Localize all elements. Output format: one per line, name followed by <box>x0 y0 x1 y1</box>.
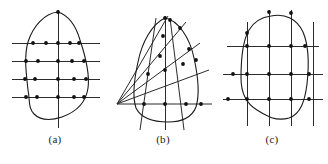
panel-b-drawing <box>108 0 218 134</box>
sample-point <box>289 72 293 76</box>
region-boundary-curve <box>241 15 308 119</box>
region-boundary-curve <box>26 12 89 119</box>
sample-point <box>72 77 76 81</box>
sample-point <box>199 102 203 106</box>
fan-ray <box>117 16 168 104</box>
sample-point <box>267 72 271 76</box>
sample-point <box>303 44 307 48</box>
sample-point <box>163 68 167 72</box>
sample-point <box>163 16 167 20</box>
sample-point <box>307 97 311 101</box>
sample-point <box>56 10 60 14</box>
sample-point <box>44 41 48 45</box>
panel-a-scanlines <box>12 43 100 97</box>
sample-point <box>161 34 165 38</box>
sample-point <box>56 95 60 99</box>
sample-point <box>289 11 293 15</box>
figure-panel-a: (a) <box>0 0 110 164</box>
sample-point <box>181 62 185 66</box>
sample-point <box>24 59 28 63</box>
sample-point <box>142 102 146 106</box>
sample-point <box>82 59 86 63</box>
sample-point <box>31 41 35 45</box>
panel-c-vertical-lines <box>247 10 313 126</box>
sample-point <box>178 26 182 30</box>
figure-container: (a) <box>0 0 328 164</box>
panel-b-caption: (b) <box>108 132 218 146</box>
sample-point <box>146 72 150 76</box>
sample-point <box>77 41 81 45</box>
sample-point <box>267 10 271 14</box>
sample-point <box>72 95 76 99</box>
panel-c-caption: (c) <box>217 132 327 146</box>
sample-point <box>70 59 74 63</box>
panel-a-sample-points <box>23 10 88 99</box>
sample-point <box>245 72 249 76</box>
sample-point <box>187 47 191 51</box>
sample-point <box>68 41 72 45</box>
sample-point <box>226 97 230 101</box>
panel-a-drawing <box>0 0 110 134</box>
sample-point <box>307 72 311 76</box>
sample-point <box>289 97 293 101</box>
sample-point <box>56 77 60 81</box>
sample-point <box>231 72 235 76</box>
sample-point <box>84 77 88 81</box>
sample-point <box>267 97 271 101</box>
figure-panel-c: (c) <box>217 0 327 164</box>
sample-point <box>245 31 249 35</box>
sample-point <box>184 102 188 106</box>
sample-point <box>245 97 249 101</box>
slant-line <box>170 18 184 130</box>
sample-point <box>24 95 28 99</box>
sample-point <box>23 77 27 81</box>
sample-point <box>194 58 198 62</box>
sample-point <box>82 95 86 99</box>
sample-point <box>289 44 293 48</box>
panel-c-drawing <box>217 0 327 134</box>
sample-point <box>56 59 60 63</box>
sample-point <box>245 44 249 48</box>
sample-point <box>267 44 271 48</box>
sample-point <box>33 77 37 81</box>
panel-a-caption: (a) <box>0 132 110 146</box>
sample-point <box>36 59 40 63</box>
sample-point <box>163 102 167 106</box>
sample-point <box>168 18 172 22</box>
sample-point <box>158 54 162 58</box>
fan-ray <box>117 43 200 104</box>
figure-panel-b: (b) <box>108 0 218 164</box>
sample-point <box>56 41 60 45</box>
sample-point <box>35 95 39 99</box>
